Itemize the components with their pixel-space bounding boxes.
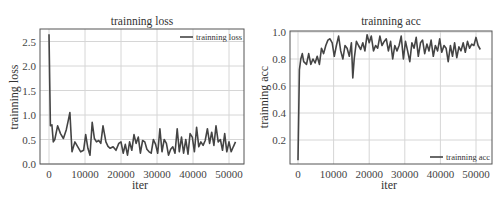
figure-canvas: trainning loss 0.00.51.01.52.02.5 010000… bbox=[0, 0, 498, 197]
acc-series-line bbox=[298, 35, 480, 161]
x-tick-label: 50000 bbox=[462, 168, 490, 180]
acc-x-axis-label: iter bbox=[381, 178, 397, 192]
y-tick-label: 1.5 bbox=[22, 85, 36, 97]
y-tick-label: 2.5 bbox=[22, 36, 36, 48]
acc-legend: trainning acc bbox=[430, 152, 490, 162]
acc-y-tick-labels: 0.20.40.60.81.0 bbox=[272, 26, 286, 146]
x-tick-label: 40000 bbox=[179, 168, 207, 180]
x-tick-label: 40000 bbox=[427, 168, 455, 180]
y-tick-label: 0.6 bbox=[272, 80, 286, 92]
acc-chart: trainning acc 0.20.40.60.81.0 0100002000… bbox=[257, 15, 492, 192]
acc-y-axis-label: trainning acc bbox=[257, 66, 271, 128]
x-tick-label: 10000 bbox=[320, 168, 348, 180]
loss-x-axis-label: iter bbox=[132, 178, 148, 192]
x-tick-label: 10000 bbox=[71, 168, 99, 180]
loss-y-axis-label: trainning loss bbox=[7, 64, 21, 129]
y-tick-label: 0.2 bbox=[272, 134, 286, 146]
acc-legend-label: trainning acc bbox=[446, 152, 490, 162]
x-tick-label: 20000 bbox=[355, 168, 383, 180]
loss-legend: trainning loss bbox=[180, 32, 242, 42]
loss-series-line bbox=[49, 34, 236, 155]
x-tick-label: 50000 bbox=[215, 168, 243, 180]
acc-chart-title: trainning acc bbox=[361, 15, 421, 28]
y-tick-label: 0.8 bbox=[272, 53, 286, 65]
y-tick-label: 1.0 bbox=[272, 26, 286, 38]
y-tick-label: 0.4 bbox=[272, 107, 286, 119]
loss-y-tick-labels: 0.00.51.01.52.02.5 bbox=[22, 36, 36, 171]
x-tick-label: 0 bbox=[46, 168, 52, 180]
loss-chart: trainning loss 0.00.51.01.52.02.5 010000… bbox=[7, 15, 244, 192]
y-tick-label: 2.0 bbox=[22, 60, 36, 72]
y-tick-label: 0.0 bbox=[22, 158, 36, 170]
y-tick-label: 1.0 bbox=[22, 109, 36, 121]
y-tick-label: 0.5 bbox=[22, 134, 36, 146]
loss-chart-title: trainning loss bbox=[111, 15, 174, 28]
x-tick-label: 0 bbox=[295, 168, 301, 180]
loss-legend-label: trainning loss bbox=[196, 32, 242, 42]
